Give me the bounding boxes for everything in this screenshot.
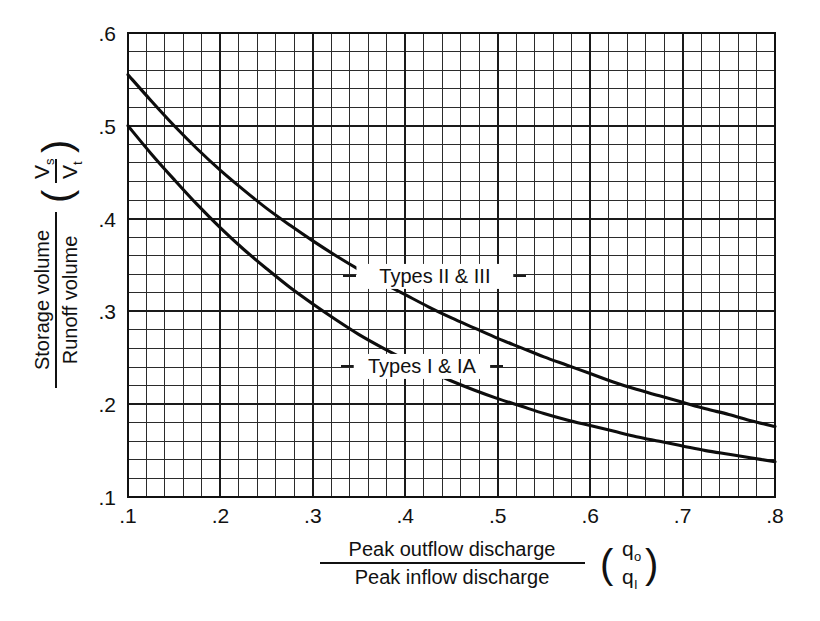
x-axis-tick-labels: .1.2.3.4.5.6.7.8 (119, 504, 784, 527)
x-tick-label: .2 (212, 504, 230, 527)
chart-svg: Types II & IIITypes I & IA .1.2.3.4.5.6.… (0, 0, 820, 621)
y-axis-symbol-denominator: V (58, 165, 81, 179)
y-axis-denominator: Runoff volume (59, 236, 81, 365)
y-axis-tick-labels: .1.2.3.4.5.6 (98, 22, 116, 509)
x-tick-label: .7 (674, 504, 692, 527)
y-axis-title: Storage volume Runoff volume ( V s V t ) (30, 140, 85, 388)
x-axis-symbol-denominator-sub: I (634, 577, 638, 592)
x-axis-symbol-numerator: q (622, 537, 634, 560)
x-axis-numerator: Peak outflow discharge (349, 538, 556, 560)
x-tick-label: .4 (397, 504, 415, 527)
y-axis-close-paren: ) (35, 140, 79, 153)
chart-figure: Types II & IIITypes I & IA .1.2.3.4.5.6.… (0, 0, 820, 621)
curve-label-2: Types I & IA (368, 355, 476, 377)
x-axis-title: Peak outflow discharge Peak inflow disch… (320, 537, 658, 592)
x-axis-denominator: Peak inflow discharge (355, 566, 550, 588)
y-tick-label: .4 (98, 208, 116, 231)
y-tick-label: .1 (98, 486, 116, 509)
y-tick-label: .2 (98, 393, 116, 416)
y-tick-label: .3 (98, 300, 116, 323)
x-tick-label: .5 (489, 504, 507, 527)
curve-labels: Types II & IIITypes I & IA (354, 264, 514, 379)
curve-label-1: Types II & III (379, 265, 490, 287)
x-axis-close-paren: ) (645, 542, 658, 586)
y-axis-symbol-numerator-sub: s (42, 158, 57, 165)
x-axis-open-paren: ( (600, 542, 614, 586)
y-tick-label: .6 (98, 22, 116, 45)
x-axis-symbol-denominator: q (622, 565, 634, 588)
x-axis-symbol-numerator-sub: o (634, 549, 641, 564)
y-tick-label: .5 (98, 115, 116, 138)
x-tick-label: .6 (581, 504, 599, 527)
y-axis-open-paren: ( (35, 189, 79, 203)
y-axis-symbol-numerator: V (30, 165, 53, 179)
x-tick-label: .3 (304, 504, 322, 527)
y-axis-symbol-denominator-sub: t (70, 161, 85, 165)
x-tick-label: .8 (766, 504, 784, 527)
y-axis-numerator: Storage volume (31, 230, 53, 370)
x-tick-label: .1 (119, 504, 137, 527)
